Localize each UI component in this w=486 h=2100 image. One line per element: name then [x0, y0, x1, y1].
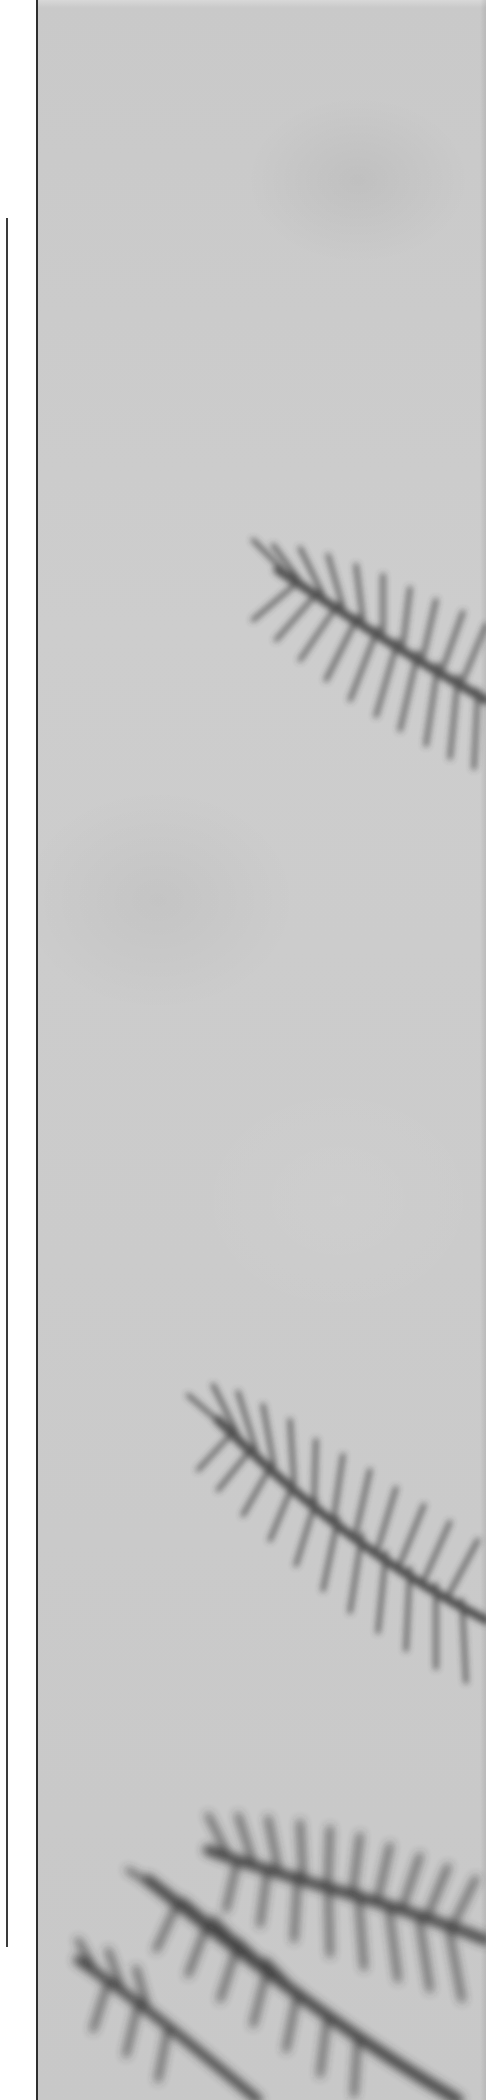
pine-branches-graphic	[38, 0, 486, 2100]
pine-branch-photo	[36, 0, 486, 2100]
upper-branch	[253, 540, 486, 768]
vertical-rule-line	[6, 218, 8, 1947]
middle-branch	[188, 1385, 486, 1682]
left-margin	[0, 0, 36, 2100]
lower-branches	[78, 1815, 486, 2100]
